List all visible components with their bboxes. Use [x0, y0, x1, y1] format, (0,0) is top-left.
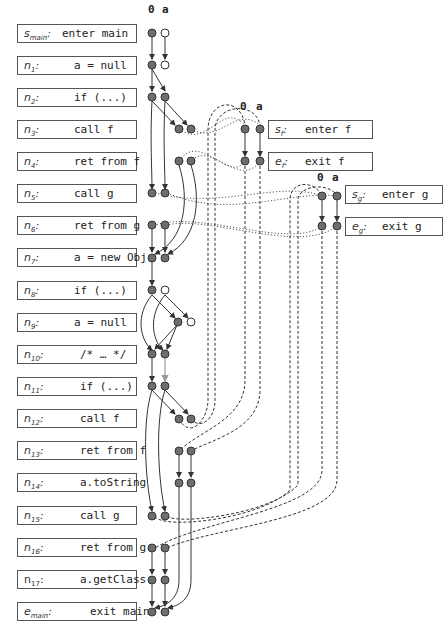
intraprocedural-edges [141, 37, 337, 608]
exploded-supergraph [0, 0, 445, 639]
